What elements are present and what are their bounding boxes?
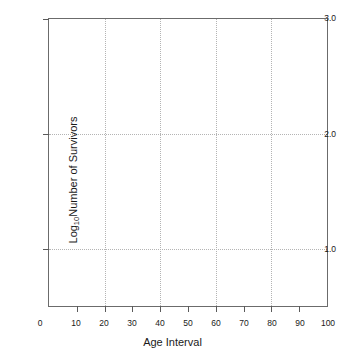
ticklabel-y-2: 2.0: [292, 129, 345, 138]
tick-x-60: [216, 306, 217, 312]
tick-x-90: [299, 306, 300, 312]
tick-y-1: [43, 249, 49, 250]
tick-x-20: [105, 306, 106, 312]
tick-y-3: [43, 19, 49, 20]
y-axis-label-main: Log: [68, 225, 79, 243]
gridline-vertical-20: [105, 19, 106, 306]
ticklabel-x-100: 100: [321, 319, 335, 328]
ticklabel-x-70: 70: [239, 319, 248, 328]
ticklabel-x-40: 40: [155, 319, 164, 328]
ticklabel-x-90: 90: [295, 319, 304, 328]
ticklabel-x-0: 0: [38, 319, 43, 328]
chart-figure: 3.0 2.0 1.0 0 10 20 30 40 50 60 70 80 90…: [0, 0, 345, 359]
y-axis-label-subscript: 10: [72, 216, 81, 224]
ticklabel-x-20: 20: [99, 319, 108, 328]
gridline-horizontal-2: [49, 134, 327, 135]
ticklabel-x-10: 10: [71, 319, 80, 328]
tick-x-80: [271, 306, 272, 312]
ticklabel-x-50: 50: [183, 319, 192, 328]
tick-x-50: [188, 306, 189, 312]
gridline-vertical-80: [271, 19, 272, 306]
gridline-vertical-40: [160, 19, 161, 306]
gridline-vertical-60: [216, 19, 217, 306]
gridline-horizontal-1: [49, 249, 327, 250]
ticklabel-x-80: 80: [267, 319, 276, 328]
y-axis-label: Log10 Number of Survivors: [68, 116, 79, 243]
ticklabel-y-1: 1.0: [292, 245, 345, 254]
tick-y-2: [43, 134, 49, 135]
x-axis-label: Age Interval: [0, 337, 345, 348]
tick-x-70: [244, 306, 245, 312]
tick-x-10: [77, 306, 78, 312]
ticklabel-x-30: 30: [127, 319, 136, 328]
tick-x-30: [132, 306, 133, 312]
ticklabel-y-3: 3.0: [292, 14, 345, 23]
ticklabel-x-60: 60: [211, 319, 220, 328]
tick-x-40: [160, 306, 161, 312]
plot-area: [48, 18, 328, 307]
y-axis-label-rest: Number of Survivors: [68, 116, 79, 216]
